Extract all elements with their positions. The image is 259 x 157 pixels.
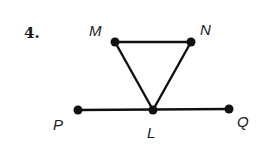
problem-number: 4. <box>24 24 40 42</box>
point-M <box>111 38 120 47</box>
geometry-figure: 4. M N P L Q <box>0 0 259 157</box>
label-N: N <box>200 21 211 38</box>
label-L: L <box>147 124 155 141</box>
point-L <box>149 106 158 115</box>
labels: M N P L Q <box>53 21 249 141</box>
label-M: M <box>89 22 102 39</box>
point-P <box>74 106 83 115</box>
point-Q <box>225 105 234 114</box>
points <box>74 38 234 115</box>
segments <box>78 42 229 110</box>
segment-NL <box>153 42 191 110</box>
segment-ML <box>115 42 153 110</box>
label-P: P <box>53 116 63 133</box>
label-Q: Q <box>237 113 249 130</box>
point-N <box>187 38 196 47</box>
